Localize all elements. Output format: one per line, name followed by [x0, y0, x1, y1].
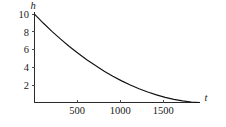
- x-tick-label-500: 500: [69, 105, 85, 116]
- y-tick-label-2: 2: [24, 80, 29, 91]
- plot-area: 10 8 6 4 2 500 1000 1500 h t: [0, 0, 226, 127]
- y-tick-label-6: 6: [24, 44, 29, 55]
- chart-figure: 10 8 6 4 2 500 1000 1500 h t: [0, 0, 226, 127]
- x-tick-label-1000: 1000: [110, 105, 131, 116]
- decay-curve: [35, 14, 201, 102]
- y-axis-label: h: [30, 0, 35, 11]
- x-tick-label-1500: 1500: [153, 105, 174, 116]
- y-tick-label-10: 10: [19, 9, 30, 20]
- y-tick-label-8: 8: [24, 27, 29, 38]
- x-axis-label: t: [205, 92, 209, 103]
- y-tick-label-4: 4: [24, 62, 30, 73]
